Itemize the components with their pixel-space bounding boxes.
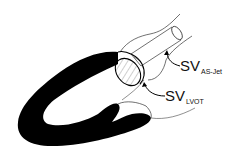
lvot-arrow [145, 85, 165, 96]
sv-lvot-main: SV [165, 87, 185, 104]
diagram-svg [0, 0, 241, 166]
sv-as-jet-sub: AS-Jet [201, 68, 222, 75]
sv-lvot-label: SVLVOT [165, 88, 204, 104]
sv-as-jet-main: SV [180, 57, 200, 74]
sv-lvot-sub: LVOT [186, 98, 204, 105]
sv-as-jet-label: SVAS-Jet [180, 58, 222, 74]
heart-diagram: SVAS-Jet SVLVOT [0, 0, 241, 166]
lv-base-line [151, 108, 195, 119]
